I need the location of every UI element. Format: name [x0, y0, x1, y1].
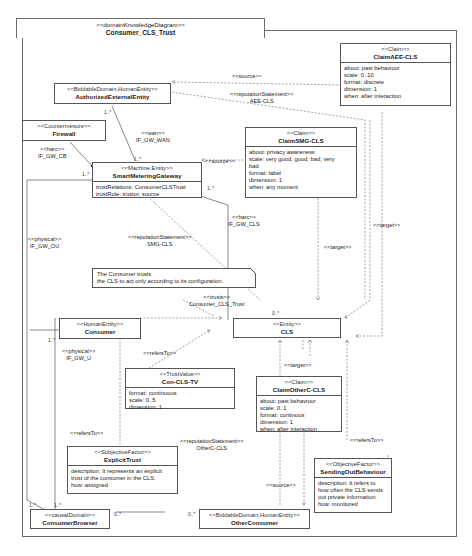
edge-label-target-2: <<target>>: [373, 222, 400, 229]
edge-stereotype: <<reputationStatement>>: [230, 91, 293, 98]
edge-stereotype: <<wan>>: [136, 130, 170, 137]
edge-label-trusts: <<trusts>> Consumer_CLS_Trust: [189, 294, 244, 308]
node-attribute: trust of the consumer in the CLS.: [71, 475, 174, 482]
node-name: SmartMeteringGateway: [95, 172, 199, 179]
edge-stereotype: <<trusts>>: [189, 294, 244, 301]
explicit-trust-node[interactable]: <<SubjectiveFactor>>ExplicitTrust descri…: [67, 446, 178, 494]
node-attribute: dimension: 1: [129, 404, 231, 411]
multiplicity: 1..*: [29, 503, 36, 508]
edge-name: IF_GW_U: [62, 355, 95, 362]
node-attribute: scale: 0..5: [129, 397, 231, 404]
node-name: ClaimSMG-CLS: [248, 137, 354, 144]
con-cls-tv-node[interactable]: <<TrustValue>>Con-CLS-TV format: continu…: [125, 368, 235, 409]
node-attribute: description: It represents an explicit: [71, 468, 174, 475]
consumer-browser-node[interactable]: <<causalDomain>>ConsumerBrowser: [30, 509, 110, 529]
edge-label-source-smg: <<source>>: [205, 158, 235, 165]
edge-label-target-3: <<target>>: [284, 362, 311, 369]
other-consumer-node[interactable]: <<BiddableDomain,HumanEntity>>OtherConsu…: [199, 509, 310, 529]
note-line: The Consumer trusts: [97, 271, 251, 278]
cls-node[interactable]: <<Entity>>CLS: [233, 318, 341, 338]
node-attribute: out private information: [318, 494, 388, 501]
node-attribute: format: continous: [260, 412, 338, 419]
node-stereotype: <<Countermesure>>: [25, 123, 103, 130]
edge-name: SMG-CLS: [128, 241, 191, 248]
edge-label-phys-ou: <<physical>> IF_GW_OU: [28, 236, 61, 250]
edge-name: IF_GW_CLS: [228, 221, 260, 228]
node-name: OtherConsumer: [202, 519, 307, 526]
edge-stereotype: <<reputationStatement>>: [128, 234, 191, 241]
node-name: SendingOutBehaviour: [317, 468, 389, 475]
node-attribute: trustRelations: ConsumerCLSTrust: [96, 184, 198, 191]
edge-name: OtherC-CLS: [180, 445, 243, 452]
multiplicity: 1..*: [104, 110, 111, 115]
edge-label-phys-u: <<physical>> IF_GW_U: [62, 348, 95, 362]
node-stereotype: <<BiddableDomain,HumanEntity>>: [202, 512, 307, 519]
edge-stereotype: <<reputationStatement>>: [180, 438, 243, 445]
edge-stereotype: <<physical>>: [62, 348, 95, 355]
node-attribute: format: discrete: [344, 79, 447, 86]
node-stereotype: <<Claim>>: [343, 46, 448, 53]
firewall-node[interactable]: <<Countermesure>>Firewall: [22, 120, 106, 141]
edge-label-wan: <<wan>> IF_GW_WAN: [136, 130, 170, 144]
node-stereotype: <<Claim>>: [259, 379, 339, 386]
node-stereotype: <<ObjectiveFactor>>: [317, 461, 389, 468]
edge-label-rep-oth: <<reputationStatement>> OtherC-CLS: [180, 438, 243, 452]
node-name: CLS: [236, 328, 338, 335]
node-name: ClaimOtherC-CLS: [259, 386, 339, 393]
node-stereotype: <<Entity>>: [236, 321, 338, 328]
edge-label-source-oth: <<source>>: [266, 482, 296, 489]
edge-label-rep-smg: <<reputationStatement>> SMG-CLS: [128, 234, 191, 248]
node-attribute: scale: 0..10: [344, 72, 447, 79]
consumer-node[interactable]: <<HumanEntity>>Consumer: [59, 318, 141, 339]
multiplicity: 1..*: [54, 503, 61, 508]
edge-label-source-aee: <<source>>: [232, 73, 262, 80]
edge-name: AEE-CLS: [230, 98, 293, 105]
node-attribute: bad: [249, 163, 353, 170]
edge-name: Consumer_CLS_Trust: [189, 301, 244, 308]
node-attribute: dimension: 1: [260, 419, 338, 426]
multiplicity: 1..*: [207, 186, 214, 191]
node-name: Firewall: [25, 130, 103, 137]
node-stereotype: <<SubjectiveFactor>>: [70, 449, 175, 456]
node-name: ConsumerBrowser: [33, 519, 107, 526]
edge-name: IF_GW_CB: [38, 153, 67, 160]
node-name: ExplicitTrust: [70, 456, 175, 463]
edge-label-hw-cls: <<harc>> IF_GW_CLS: [228, 214, 260, 228]
node-attribute: scale: 0..1: [260, 405, 338, 412]
sending-out-behaviour-node[interactable]: <<ObjectiveFactor>>SendingOutBehaviour d…: [314, 458, 392, 513]
trust-note: The Consumer trusts the CLS to act only …: [92, 268, 256, 288]
multiplicity: 0..*: [114, 512, 121, 517]
multiplicity: 1..*: [134, 157, 141, 162]
multiplicity: 1..*: [82, 172, 89, 177]
edge-label-rep-aee: <<reputationStatement>> AEE-CLS: [230, 91, 293, 105]
node-name: Consumer: [62, 328, 138, 335]
multiplicity: 1..*: [48, 338, 55, 343]
edge-label-refers-2: <<refersTo>>: [70, 430, 103, 437]
node-name: ClaimAEE-CLS: [343, 53, 448, 60]
edge-name: IF_GW_OU: [28, 243, 61, 250]
node-attribute: format: label: [249, 170, 353, 177]
node-attribute: when: after interaction: [260, 426, 338, 433]
edge-label-target-1: <<target>>: [324, 244, 351, 251]
edge-stereotype: <<harc>>: [38, 146, 67, 153]
node-attribute: about: privacy awareness: [249, 149, 353, 156]
node-attribute: when: after interaction: [344, 93, 447, 100]
node-attribute: format: continuous: [129, 390, 231, 397]
smart-metering-gateway-node[interactable]: <<Machine,Entity>>SmartMeteringGateway t…: [92, 162, 202, 198]
node-attribute: dimension: 1: [249, 177, 353, 184]
claim-smg-cls-node[interactable]: <<Claim>>ClaimSMG-CLS about: privacy awa…: [245, 127, 357, 198]
edge-stereotype: <<harc>>: [228, 214, 260, 221]
multiplicity: 0..*: [272, 311, 279, 316]
node-name: Con-CLS-TV: [128, 378, 232, 385]
note-line: the CLS to act only according to its con…: [97, 278, 251, 285]
node-attribute: about: past behaviour: [344, 65, 447, 72]
node-attribute: how: monitored: [318, 501, 388, 508]
edge-label-refers-3: <<refersTo>>: [350, 437, 383, 444]
node-stereotype: <<causalDomain>>: [33, 512, 107, 519]
edge-name: IF_GW_WAN: [136, 137, 170, 144]
edge-label-refers-1: <<refersTo>>: [143, 350, 176, 357]
authorized-external-entity-node[interactable]: <<BiddableDomain,HumanEntity>>Authorized…: [54, 83, 171, 104]
claim-otherc-cls-node[interactable]: <<Claim>>ClaimOtherC-CLS about: past beh…: [256, 376, 342, 432]
claim-aee-cls-node[interactable]: <<Claim>>ClaimAEE-CLS about: past behavi…: [340, 43, 451, 106]
node-stereotype: <<BiddableDomain,HumanEntity>>: [57, 86, 168, 93]
